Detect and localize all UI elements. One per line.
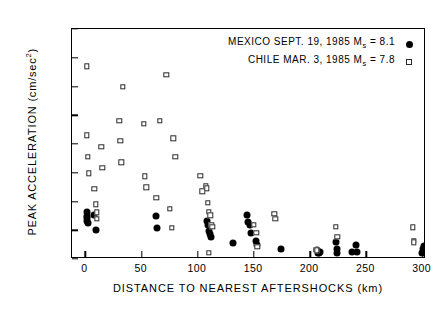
data-point-chile [94, 209, 99, 214]
data-point-chile [119, 159, 124, 164]
legend-item-chile: CHILE MAR. 3, 1985 Ms = 7.8 [228, 53, 416, 71]
y-tick [72, 258, 78, 259]
x-tick [253, 251, 254, 257]
data-point-chile [314, 248, 319, 253]
data-point-chile [99, 144, 104, 149]
data-point-mexico [84, 219, 91, 226]
x-tick [85, 251, 86, 257]
x-tick [422, 251, 423, 257]
x-tick [141, 251, 142, 257]
data-point-mexico [92, 227, 99, 234]
x-tick-label: 100 [187, 262, 206, 274]
figure: MEXICO SEPT. 19, 1985 Ms = 8.1 CHILE MAR… [0, 0, 444, 310]
data-point-chile [84, 133, 89, 138]
data-point-chile [208, 213, 213, 218]
x-tick-label: 200 [300, 262, 319, 274]
data-point-chile [335, 234, 340, 239]
data-point-chile [142, 173, 147, 178]
x-tick-label: 0 [81, 262, 87, 274]
data-point-chile [100, 165, 105, 170]
x-axis-title: DISTANCE TO NEAREST AFTERSHOCKS (km) [71, 282, 425, 294]
legend-label-mexico: MEXICO SEPT. 19, 1985 Ms = 8.1 [228, 35, 395, 53]
data-point-chile [164, 72, 169, 77]
legend-marker-open-square-icon [402, 59, 416, 64]
data-point-chile [173, 154, 178, 159]
data-point-mexico [334, 249, 341, 256]
legend-item-mexico: MEXICO SEPT. 19, 1985 Ms = 8.1 [228, 35, 416, 53]
x-tick [310, 251, 311, 257]
data-point-chile [255, 244, 260, 249]
data-point-chile [170, 136, 175, 141]
x-tick-label: 250 [356, 262, 375, 274]
data-point-mexico [153, 212, 160, 219]
data-point-chile [93, 202, 98, 207]
data-point-chile [254, 230, 259, 235]
y-tick [72, 230, 78, 231]
x-tick [197, 251, 198, 257]
data-point-chile [273, 216, 278, 221]
data-point-chile [154, 195, 159, 200]
data-point-chile [84, 64, 89, 69]
data-point-chile [206, 250, 211, 255]
data-point-mexico [208, 233, 215, 240]
x-tick-label: 50 [134, 262, 146, 274]
y-tick [72, 201, 78, 202]
data-point-chile [92, 186, 97, 191]
data-point-chile [141, 121, 146, 126]
data-point-mexico [229, 239, 236, 246]
data-point-mexico [420, 243, 424, 250]
data-point-chile [411, 240, 416, 245]
data-point-chile [116, 118, 121, 123]
y-tick [72, 86, 78, 87]
data-point-chile [205, 200, 210, 205]
y-tick [72, 143, 78, 144]
data-point-chile [210, 224, 215, 229]
y-axis-title: PEAK ACCELERATION (cm/sec2) [24, 27, 38, 257]
data-point-chile [410, 225, 415, 230]
data-point-chile [118, 138, 123, 143]
y-tick [72, 57, 78, 58]
data-point-chile [86, 171, 91, 176]
y-tick [72, 115, 78, 116]
data-point-chile [85, 154, 90, 159]
x-tick-label: 150 [244, 262, 263, 274]
plot-frame: MEXICO SEPT. 19, 1985 Ms = 8.1 CHILE MAR… [71, 28, 425, 258]
data-point-chile [251, 222, 256, 227]
legend-label-chile: CHILE MAR. 3, 1985 Ms = 7.8 [248, 53, 395, 71]
data-point-chile [333, 224, 338, 229]
data-point-chile [169, 225, 174, 230]
data-point-chile [204, 186, 209, 191]
legend-marker-filled-circle-icon [402, 41, 416, 48]
data-point-chile [143, 184, 148, 189]
data-point-chile [167, 206, 172, 211]
data-point-chile [120, 84, 125, 89]
data-point-chile [197, 173, 202, 178]
data-point-mexico [154, 224, 161, 231]
x-tick-label: 300 [412, 262, 431, 274]
x-tick [366, 251, 367, 257]
data-point-mexico [354, 249, 361, 256]
y-tick [72, 172, 78, 173]
data-point-mexico [278, 245, 285, 252]
legend: MEXICO SEPT. 19, 1985 Ms = 8.1 CHILE MAR… [228, 35, 416, 71]
data-point-chile [94, 216, 99, 221]
data-point-chile [157, 118, 162, 123]
y-tick [72, 28, 78, 29]
